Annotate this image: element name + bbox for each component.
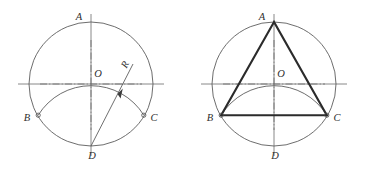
label-point-o: O [94, 68, 102, 79]
label-point-d: D [270, 150, 279, 161]
figure-panel-left: A O B C D R [0, 0, 182, 172]
label-point-o: O [277, 68, 285, 79]
label-point-c: C [150, 112, 158, 123]
label-point-a: A [258, 11, 266, 22]
label-point-c: C [333, 112, 341, 123]
label-point-b: B [207, 112, 214, 123]
label-point-d: D [87, 150, 96, 161]
figure-panel-right: A O B C D [183, 0, 365, 172]
label-point-b: B [24, 112, 31, 123]
label-point-a: A [75, 11, 83, 22]
label-radius-r: R [118, 59, 131, 70]
figure-sheet: A O B C D R A O [0, 0, 365, 172]
